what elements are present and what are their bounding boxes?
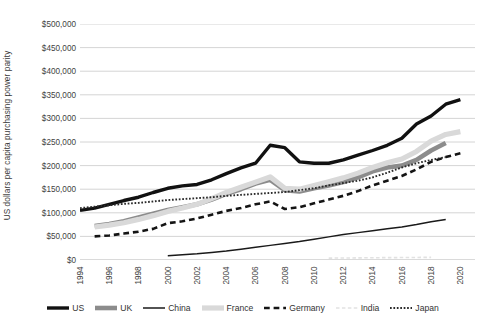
black-dashed-line-icon xyxy=(264,303,286,313)
legend-label: Germany xyxy=(289,303,324,313)
series-lines xyxy=(80,100,460,259)
legend-item-japan[interactable]: Japan xyxy=(390,303,438,313)
legend-label: India xyxy=(361,303,380,313)
y-tick-label: $500,000 xyxy=(14,20,76,29)
series-line-us xyxy=(80,100,460,211)
y-tick-label: $250,000 xyxy=(14,138,76,147)
chart-legend: USUKChinaFranceGermanyIndiaJapan xyxy=(0,297,486,319)
line-chart: US dollars per capita purchasing power p… xyxy=(0,0,486,331)
legend-label: UK xyxy=(120,303,132,313)
lightgray-dashed-line-icon xyxy=(336,303,358,313)
legend-label: China xyxy=(168,303,190,313)
thin-black-line-icon xyxy=(143,303,165,313)
y-axis-tick-labels: $500,000$450,000$400,000$350,000$300,000… xyxy=(14,0,76,331)
legend-label: Japan xyxy=(415,303,438,313)
y-tick-label: $200,000 xyxy=(14,161,76,170)
y-axis-title-text: US dollars per capita purchasing power p… xyxy=(4,50,13,220)
y-tick-label: $50,000 xyxy=(14,232,76,241)
y-tick-label: $450,000 xyxy=(14,43,76,52)
legend-item-france[interactable]: France xyxy=(202,303,254,313)
legend-item-india[interactable]: India xyxy=(336,303,380,313)
plot-area xyxy=(80,24,475,260)
y-tick-label: $400,000 xyxy=(14,67,76,76)
legend-label: US xyxy=(72,303,84,313)
thick-black-line-icon xyxy=(47,303,69,313)
black-dotted-line-icon xyxy=(390,303,412,313)
series-line-uk xyxy=(95,143,446,226)
thick-lightgray-line-icon xyxy=(202,303,224,313)
legend-item-germany[interactable]: Germany xyxy=(264,303,324,313)
series-line-china xyxy=(168,219,446,255)
series-line-india xyxy=(329,257,431,258)
legend-item-china[interactable]: China xyxy=(143,303,190,313)
plot-svg xyxy=(80,24,475,260)
x-tick-label: 2020 xyxy=(443,260,477,280)
legend-item-uk[interactable]: UK xyxy=(95,303,132,313)
legend-label: France xyxy=(227,303,254,313)
y-tick-label: $100,000 xyxy=(14,208,76,217)
y-tick-label: $350,000 xyxy=(14,90,76,99)
legend-item-us[interactable]: US xyxy=(47,303,84,313)
thick-gray-line-icon xyxy=(95,303,117,313)
x-axis-tick-labels: 1994199619982000200220042006200820102012… xyxy=(80,260,475,294)
y-tick-label: $150,000 xyxy=(14,185,76,194)
y-tick-label: $300,000 xyxy=(14,114,76,123)
